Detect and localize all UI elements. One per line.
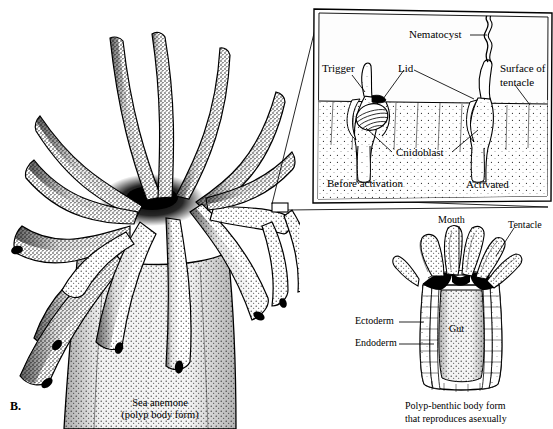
inset-state-activated: Activated [466, 178, 509, 190]
illustration-layer [0, 0, 553, 429]
polyp-label-tentacle: Tentacle [508, 219, 542, 230]
polyp-caption-line1: Polyp-benthic body form [405, 400, 506, 413]
polyp-label-mouth: Mouth [438, 214, 465, 225]
inset-state-before-activation: Before activation [327, 177, 403, 189]
polyp-label-ectoderm: Ectoderm [355, 315, 394, 326]
polyp-tentacle [445, 226, 463, 275]
inset-label-nematocyst: Nematocyst [409, 28, 462, 40]
polyp-tentacle [393, 256, 419, 286]
polyp-label-endoderm: Endoderm [355, 337, 397, 348]
inset-label-surface-line2: tentacle [500, 76, 534, 88]
anemone-caption-line1: Sea anemone [105, 397, 215, 409]
inset-label-surface-line1: Surface of [500, 62, 546, 74]
sea-anemone-illustration [10, 32, 312, 429]
inset-label-trigger: Trigger [322, 62, 355, 74]
inset-label-cnidoblast: Cnidoblast [396, 146, 444, 158]
anemone-caption-line2: (polyp body form) [105, 409, 215, 421]
figure-letter: B. [10, 400, 21, 413]
magnified-region-box [272, 203, 288, 212]
polyp-tentacle [421, 234, 444, 276]
polyp-label-gut: Gut [449, 323, 464, 334]
polyp-cross-section-illustration [393, 226, 522, 392]
figure-canvas: B. Sea anemone (polyp body form) Nematoc… [0, 0, 553, 429]
polyp-caption-line2: that reproduces asexually [405, 413, 507, 426]
inset-label-lid: Lid [398, 62, 413, 74]
